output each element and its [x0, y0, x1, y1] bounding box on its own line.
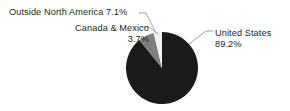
slice-label-united-states-value: 89.2%: [215, 39, 271, 50]
pie-chart: Outside North America 7.1% Canada & Mexi…: [0, 0, 290, 111]
slice-label-canada-mexico-name: Canada & Mexico: [75, 23, 149, 33]
slice-label-canada-mexico-value: 3.7%: [75, 34, 149, 45]
slice-label-united-states: United States 89.2%: [215, 28, 271, 49]
slice-label-united-states-name: United States: [215, 28, 271, 38]
leader-line-united-states: [189, 31, 213, 44]
slice-label-outside-north-america: Outside North America 7.1%: [9, 7, 127, 18]
slice-label-outside-north-america-text: Outside North America 7.1%: [9, 7, 127, 17]
slice-label-canada-mexico: Canada & Mexico 3.7%: [75, 23, 149, 44]
